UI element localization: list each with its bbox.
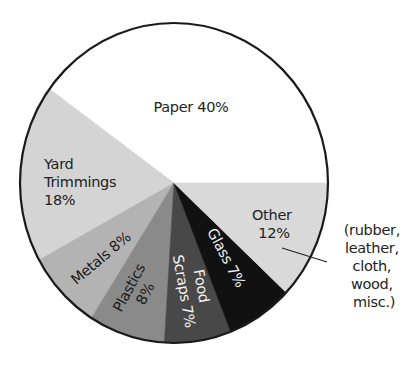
label-paper: Paper 40% [153,99,228,115]
pie-chart: Paper 40% Yard Trimmings 18% Metals 8% P… [0,0,415,365]
annotation-other-contents: (rubber, leather, cloth, wood, misc.) [344,222,405,310]
